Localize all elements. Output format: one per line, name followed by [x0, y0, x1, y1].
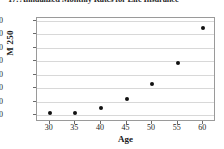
x-tick-label: 35 — [62, 123, 86, 132]
x-tick-label: 40 — [88, 123, 112, 132]
y-tick-mark — [33, 101, 36, 102]
y-tick-label: 10 — [0, 110, 3, 119]
data-point — [150, 82, 154, 86]
x-tick-label: 30 — [37, 123, 61, 132]
chart-title: 17. Annualized Monthly Rates for Life In… — [8, 0, 224, 4]
y-tick-label: 70 — [0, 29, 3, 38]
y-tick-mark — [33, 20, 36, 21]
x-tick-label: 55 — [165, 123, 189, 132]
plot-area — [36, 17, 215, 121]
gridline — [37, 61, 214, 62]
gridline — [37, 115, 214, 116]
data-point — [201, 26, 205, 30]
x-axis-title: Age — [36, 134, 215, 144]
data-point — [176, 61, 180, 65]
y-tick-label: 50 — [0, 56, 3, 65]
y-tick-label: 20 — [0, 96, 3, 105]
x-tick-label: 50 — [139, 123, 163, 132]
y-axis-title: M 250 — [5, 13, 15, 73]
y-tick-mark — [33, 60, 36, 61]
y-tick-mark — [33, 114, 36, 115]
gridline — [37, 102, 214, 103]
gridline — [37, 21, 214, 22]
y-tick-mark — [33, 33, 36, 34]
gridline — [37, 34, 214, 35]
x-tick-label: 45 — [114, 123, 138, 132]
y-tick-mark — [33, 74, 36, 75]
y-tick-mark — [33, 47, 36, 48]
data-point — [99, 106, 103, 110]
data-point — [125, 97, 129, 101]
y-tick-mark — [33, 87, 36, 88]
gridline — [37, 75, 214, 76]
gridline — [37, 48, 214, 49]
y-tick-label: 80 — [0, 15, 3, 24]
x-tick-label: 60 — [190, 123, 214, 132]
y-tick-label: 40 — [0, 69, 3, 78]
gridline — [37, 88, 214, 89]
y-tick-label: 30 — [0, 83, 3, 92]
y-tick-label: 60 — [0, 42, 3, 51]
data-point — [48, 111, 52, 115]
